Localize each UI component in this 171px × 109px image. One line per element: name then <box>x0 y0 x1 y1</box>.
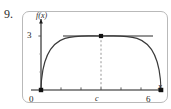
point-origin <box>39 88 43 92</box>
figure-frame <box>22 11 168 103</box>
x-axis-label: x <box>158 82 162 91</box>
point-maximum <box>99 34 103 38</box>
y-axis-label: f(x) <box>36 12 47 20</box>
graph-svg <box>23 12 169 104</box>
x-tick-label-0: 0 <box>29 95 34 104</box>
figure-container: 9. <box>0 0 171 109</box>
plot-area <box>23 12 169 104</box>
x-tick-label-c: c <box>95 95 99 103</box>
y-tick-label-3: 3 <box>27 31 32 40</box>
problem-number: 9. <box>4 8 13 20</box>
x-tick-label-6: 6 <box>146 95 151 104</box>
